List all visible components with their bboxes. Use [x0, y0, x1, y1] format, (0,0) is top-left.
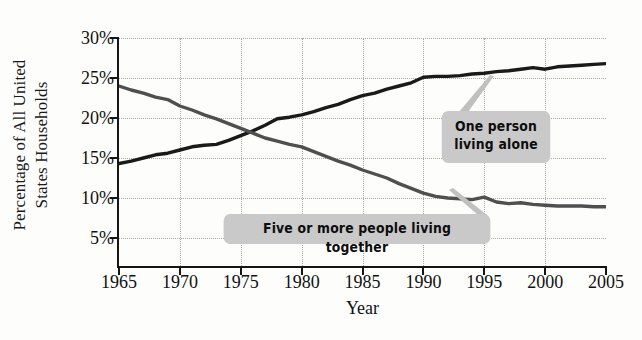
y-tick-label: 25%: [62, 69, 114, 87]
y-tick-mark: [110, 157, 118, 159]
y-tick-mark: [110, 77, 118, 79]
chart-figure: Percentage of All United States Househol…: [0, 0, 642, 340]
x-tick-label: 1970: [148, 272, 212, 293]
x-tick-label: 2000: [513, 272, 577, 293]
callout-one-person-living-alone: One person living alone: [442, 111, 551, 163]
x-tick-label: 1980: [270, 272, 334, 293]
callout-five-or-more-people: Five or more people living together: [224, 214, 491, 244]
x-tick-label: 1975: [209, 272, 273, 293]
y-tick-mark: [110, 197, 118, 199]
y-axis-title-line2: States Households: [31, 60, 53, 231]
y-tick-label: 5%: [62, 229, 114, 247]
y-tick-label: 20%: [62, 109, 114, 127]
y-axis-tick-labels: 30%25%20%15%10%5%: [58, 0, 114, 290]
y-axis-title-line1: Percentage of All United: [10, 60, 29, 231]
callout-one-person-line2: living alone: [454, 136, 538, 152]
y-axis-title: Percentage of All United States Househol…: [0, 0, 62, 290]
y-axis-title-text: Percentage of All United States Househol…: [9, 60, 53, 231]
x-tick-label: 1995: [452, 272, 516, 293]
x-tick-label: 2005: [574, 272, 638, 293]
y-tick-label: 30%: [62, 29, 114, 47]
x-axis-title: Year: [119, 298, 606, 319]
y-tick-mark: [110, 37, 118, 39]
x-tick-label: 1990: [391, 272, 455, 293]
y-tick-mark: [110, 237, 118, 239]
callout-one-person-line1: One person: [455, 118, 537, 134]
y-tick-mark: [110, 117, 118, 119]
x-tick-label: 1965: [87, 272, 151, 293]
y-tick-label: 15%: [62, 149, 114, 167]
y-tick-label: 10%: [62, 189, 114, 207]
x-tick-label: 1985: [331, 272, 395, 293]
